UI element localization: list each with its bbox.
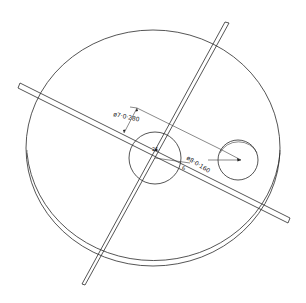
dim-small-hole-text: ø8·0·160 <box>185 154 211 174</box>
label-center: 25 <box>152 146 158 152</box>
technical-drawing: ø7·0·280 ø8·0·160 25 6 <box>0 0 306 303</box>
section-plane-b <box>82 22 229 285</box>
center-point <box>155 149 157 151</box>
dimension-small-hole: ø8·0·160 <box>155 150 241 174</box>
label-edge: 6 <box>182 165 185 171</box>
section-plane-a <box>18 83 290 223</box>
dim-large-hole-text: ø7·0·280 <box>113 110 141 122</box>
